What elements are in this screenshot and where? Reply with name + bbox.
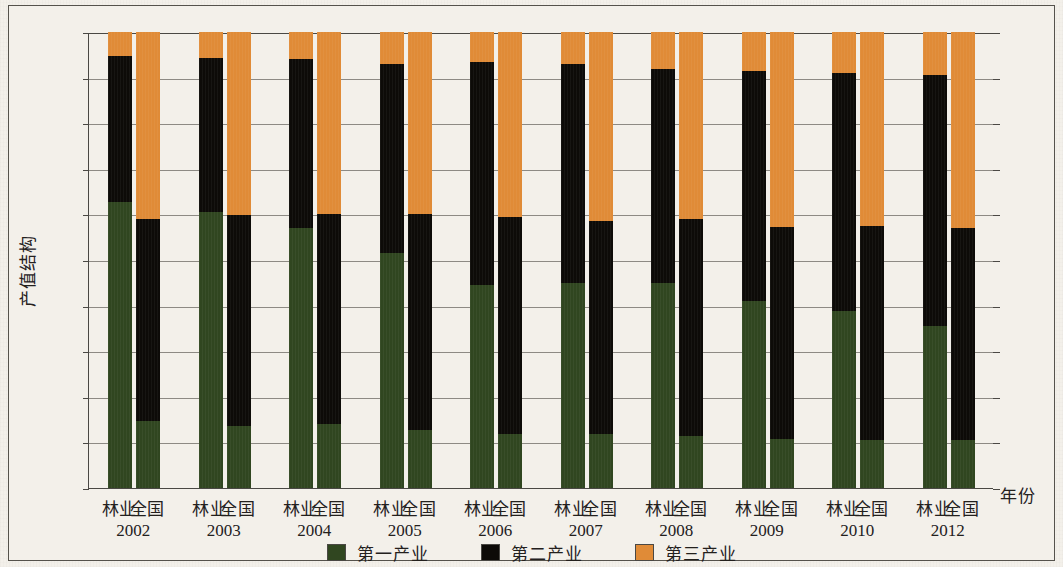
stacked-bar[interactable] xyxy=(770,32,794,488)
bar-segment-tertiary-industry xyxy=(832,32,856,73)
stacked-bar[interactable] xyxy=(289,32,313,488)
x-axis-category-label: 全国 xyxy=(306,495,350,520)
y-axis-tick-mark xyxy=(83,443,89,444)
y-axis-tick-mark-right xyxy=(993,489,1000,490)
bar-segment-primary-industry xyxy=(498,434,522,488)
bar-segment-tertiary-industry xyxy=(589,32,613,221)
bar-segment-secondary-industry xyxy=(923,75,947,326)
bar-segment-tertiary-industry xyxy=(742,32,766,71)
bar-segment-secondary-industry xyxy=(679,219,703,437)
bar-segment-primary-industry xyxy=(742,301,766,488)
stacked-bar[interactable] xyxy=(108,32,132,488)
y-axis-tick-mark-right xyxy=(993,307,1000,308)
bar-segment-secondary-industry xyxy=(227,215,251,426)
x-axis-year-label: 2010 xyxy=(812,521,902,541)
bar-segment-tertiary-industry xyxy=(860,32,884,226)
legend-label-secondary-industry: 第二产业 xyxy=(511,540,583,565)
y-axis-tick-mark xyxy=(83,79,89,80)
y-axis-tick-mark-right xyxy=(993,398,1000,399)
bar-segment-secondary-industry xyxy=(589,221,613,434)
stacked-bar[interactable] xyxy=(742,32,766,488)
x-axis-year-label: 2008 xyxy=(631,521,721,541)
y-axis-tick-mark-right xyxy=(993,79,1000,80)
x-axis-year-label: 2002 xyxy=(88,521,178,541)
stacked-bar[interactable] xyxy=(561,32,585,488)
stacked-bar[interactable] xyxy=(317,32,341,488)
stacked-bar[interactable] xyxy=(199,32,223,488)
bar-segment-primary-industry xyxy=(860,440,884,488)
y-axis-tick-mark xyxy=(83,33,89,34)
bar-segment-secondary-industry xyxy=(408,214,432,429)
x-axis-category-label: 全国 xyxy=(125,495,169,520)
bar-segment-secondary-industry xyxy=(136,219,160,421)
stacked-bar[interactable] xyxy=(589,32,613,488)
x-axis-category-label: 全国 xyxy=(849,495,893,520)
stacked-bar[interactable] xyxy=(860,32,884,488)
gridline xyxy=(89,398,993,399)
legend-label-primary-industry: 第一产业 xyxy=(357,540,429,565)
stacked-bar[interactable] xyxy=(470,32,494,488)
x-axis-year-label: 2004 xyxy=(269,521,359,541)
y-axis-tick-mark xyxy=(83,307,89,308)
bar-segment-tertiary-industry xyxy=(380,32,404,64)
bar-segment-primary-industry xyxy=(227,426,251,488)
bar-segment-tertiary-industry xyxy=(317,32,341,214)
bar-segment-primary-industry xyxy=(832,311,856,488)
bar-segment-primary-industry xyxy=(589,434,613,488)
legend-item-primary-industry[interactable]: 第一产业 xyxy=(327,540,429,565)
stacked-bar[interactable] xyxy=(951,32,975,488)
stacked-bar[interactable] xyxy=(136,32,160,488)
bar-segment-tertiary-industry xyxy=(923,32,947,75)
bar-segment-primary-industry xyxy=(199,212,223,488)
y-axis-title: 产值结构 xyxy=(14,196,39,346)
bar-segment-primary-industry xyxy=(770,439,794,488)
bar-segment-secondary-industry xyxy=(289,59,313,228)
bar-segment-primary-industry xyxy=(380,253,404,488)
x-axis-category-label: 全国 xyxy=(940,495,984,520)
bar-segment-secondary-industry xyxy=(199,58,223,212)
bar-segment-secondary-industry xyxy=(108,56,132,202)
legend-swatch-secondary-industry xyxy=(481,544,500,561)
x-axis-category-label: 全国 xyxy=(668,495,712,520)
stacked-bar[interactable] xyxy=(227,32,251,488)
y-axis-tick-mark-right xyxy=(993,261,1000,262)
legend-label-tertiary-industry: 第三产业 xyxy=(665,540,737,565)
bar-segment-tertiary-industry xyxy=(227,32,251,215)
stacked-bar[interactable] xyxy=(651,32,675,488)
bar-segment-secondary-industry xyxy=(951,228,975,440)
bar-segment-tertiary-industry xyxy=(770,32,794,227)
bar-segment-tertiary-industry xyxy=(498,32,522,217)
x-axis-category-label: 全国 xyxy=(759,495,803,520)
stacked-bar[interactable] xyxy=(498,32,522,488)
legend-item-tertiary-industry[interactable]: 第三产业 xyxy=(635,540,737,565)
stacked-bar[interactable] xyxy=(380,32,404,488)
x-axis-category-label: 全国 xyxy=(397,495,441,520)
bar-segment-tertiary-industry xyxy=(651,32,675,68)
bar-segment-tertiary-industry xyxy=(679,32,703,219)
gridline xyxy=(89,307,993,308)
stacked-bar[interactable] xyxy=(679,32,703,488)
gridline xyxy=(89,170,993,171)
legend-item-secondary-industry[interactable]: 第二产业 xyxy=(481,540,583,565)
gridline xyxy=(89,215,993,216)
y-axis-tick-mark xyxy=(83,124,89,125)
x-axis-year-label: 2006 xyxy=(450,521,540,541)
y-axis-tick-mark xyxy=(83,215,89,216)
legend-swatch-tertiary-industry xyxy=(635,544,654,561)
bar-segment-tertiary-industry xyxy=(561,32,585,64)
bar-segment-secondary-industry xyxy=(317,214,341,424)
bar-segment-secondary-industry xyxy=(470,62,494,285)
stacked-bar[interactable] xyxy=(408,32,432,488)
plot-area: 0%10%20%30%40%50%60%70%80%90%100% xyxy=(88,33,993,489)
bar-segment-secondary-industry xyxy=(860,226,884,440)
y-axis-tick-mark-right xyxy=(993,170,1000,171)
y-axis-tick-mark-right xyxy=(993,352,1000,353)
stacked-bar[interactable] xyxy=(923,32,947,488)
x-axis-category-label: 全国 xyxy=(216,495,260,520)
bar-segment-primary-industry xyxy=(108,202,132,488)
bar-segment-primary-industry xyxy=(561,283,585,488)
legend-swatch-primary-industry xyxy=(327,544,346,561)
y-axis-tick-mark-right xyxy=(993,124,1000,125)
bar-segment-primary-industry xyxy=(136,421,160,488)
stacked-bar[interactable] xyxy=(832,32,856,488)
